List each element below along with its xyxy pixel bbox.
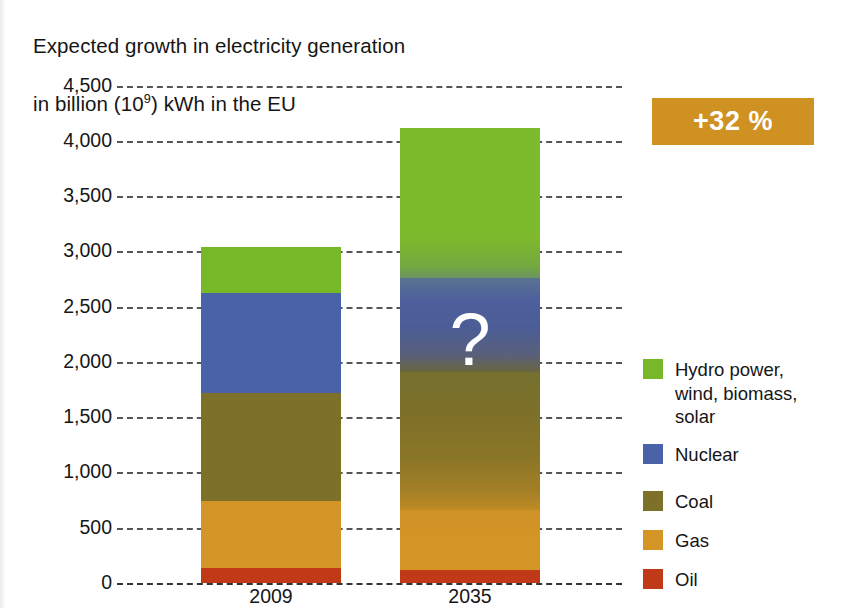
gridline-4000: [117, 141, 622, 143]
legend-item-gas[interactable]: Gas: [643, 529, 709, 553]
ytick-label-4000: 4,000: [12, 131, 112, 151]
bar-2035-segment-gas[interactable]: [400, 510, 540, 570]
growth-badge: +32 %: [652, 98, 814, 145]
legend-item-nuclear[interactable]: Nuclear: [643, 443, 739, 467]
gridline-3500: [117, 196, 622, 198]
xaxis-label-2009: 2009: [181, 586, 361, 606]
bar-2009[interactable]: [201, 247, 341, 583]
ytick-label-4500: 4,500: [12, 76, 112, 96]
ytick-label-2000: 2,000: [12, 352, 112, 372]
legend-swatch-nuclear-icon: [643, 444, 663, 464]
ytick-label-500: 500: [12, 518, 112, 538]
bar-2009-segment-gas[interactable]: [201, 501, 341, 568]
bar-2009-segment-nuclear[interactable]: [201, 293, 341, 393]
legend-label-gas: Gas: [675, 529, 709, 553]
bar-2035-segment-coal[interactable]: [400, 372, 540, 510]
legend-label-nuclear: Nuclear: [675, 443, 739, 467]
bar-2009-segment-oil[interactable]: [201, 568, 341, 582]
bar-2009-segment-coal[interactable]: [201, 393, 341, 501]
legend-item-coal[interactable]: Coal: [643, 490, 713, 514]
bar-2009-segment-hydro-wind-biomass-solar[interactable]: [201, 247, 341, 293]
ytick-label-1500: 1,500: [12, 407, 112, 427]
ytick-label-1000: 1,000: [12, 462, 112, 482]
xaxis-label-2035: 2035: [380, 586, 560, 606]
bar-2035-segment-oil[interactable]: [400, 570, 540, 583]
legend-swatch-coal-icon: [643, 491, 663, 511]
uncertainty-question-mark: ?: [400, 303, 540, 377]
legend-swatch-hydro-icon: [643, 359, 663, 379]
legend-swatch-gas-icon: [643, 530, 663, 550]
legend-label-coal: Coal: [675, 490, 713, 514]
chart-root: Expected growth in electricity generatio…: [0, 0, 846, 608]
bar-2035[interactable]: ?: [400, 128, 540, 583]
ytick-label-2500: 2,500: [12, 297, 112, 317]
gridline-3000: [117, 251, 622, 253]
gridline-0-baseline: [117, 583, 622, 585]
legend-swatch-oil-icon: [643, 569, 663, 589]
gridline-500: [117, 528, 622, 530]
gridline-1000: [117, 472, 622, 474]
legend-label-hydro: Hydro power, wind, biomass, solar: [675, 358, 797, 429]
ytick-label-3500: 3,500: [12, 186, 112, 206]
gridline-1500: [117, 417, 622, 419]
bar-2035-segment-hydro-wind-biomass-solar[interactable]: [400, 128, 540, 278]
gridline-4500: [117, 86, 622, 88]
gridline-2500: [117, 307, 622, 309]
legend-label-oil: Oil: [675, 568, 698, 592]
legend-item-hydro-wind-biomass-solar[interactable]: Hydro power, wind, biomass, solar: [643, 358, 797, 429]
ytick-label-0: 0: [12, 573, 112, 593]
gridline-2000: [117, 362, 622, 364]
legend-item-oil[interactable]: Oil: [643, 568, 698, 592]
ytick-label-3000: 3,000: [12, 241, 112, 261]
plot-area: 4,500 4,000 3,500 3,000 2,500 2,000 1,50…: [0, 0, 640, 608]
